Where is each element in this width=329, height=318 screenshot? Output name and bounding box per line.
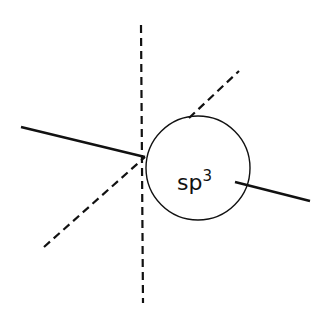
sp3-label: sp3	[177, 167, 212, 195]
sp3-orbital-circle	[146, 116, 250, 220]
vertical-dashed-axis	[141, 25, 143, 303]
orbital-diagram: sp3	[0, 0, 329, 318]
upper-dashed-diagonal	[189, 71, 239, 118]
lower-dashed-diagonal	[44, 157, 145, 247]
left-solid-bond	[21, 127, 145, 157]
right-solid-bond	[235, 182, 310, 201]
